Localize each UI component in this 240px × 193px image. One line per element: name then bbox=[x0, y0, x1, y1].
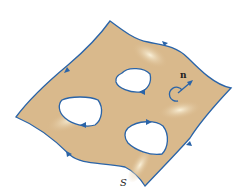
surface-figure bbox=[0, 0, 240, 193]
surface-label: S bbox=[120, 177, 127, 188]
normal-label: n bbox=[180, 70, 187, 80]
diagram: n S bbox=[0, 0, 240, 193]
